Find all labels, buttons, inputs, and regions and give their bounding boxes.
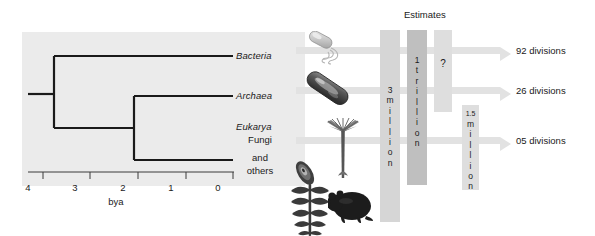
divisions-label-bacteria: 92 divisions [516, 45, 566, 56]
label-and: and [236, 152, 284, 163]
divisions-label-eukarya: 05 divisions [516, 135, 566, 146]
animal-rodent-icon [328, 186, 374, 224]
axis-tick-label-3: 3 [68, 182, 82, 193]
estimate-bar-3-million-text: 3million [380, 85, 400, 168]
estimate-bar-question[interactable]: ? [434, 30, 452, 112]
estimate-bar-3-million[interactable]: 3million [380, 30, 400, 222]
estimate-bar-1-trillion[interactable]: 1trillion [407, 30, 427, 185]
axis-title-bya: bya [96, 196, 136, 207]
axis-tick-label-4: 4 [21, 182, 35, 193]
estimate-bar-1_5-million-value: 1.5 [462, 110, 479, 117]
label-fungi: Fungi [236, 134, 284, 145]
axis-tick-label-0: 0 [211, 182, 225, 193]
estimate-bar-1_5-million[interactable]: 1.5 million [462, 105, 479, 190]
archaeon-rod-icon [305, 71, 353, 111]
fungus-mushroom-icon [325, 118, 361, 180]
arrow-head-archaea [500, 87, 511, 101]
plant-icon [288, 182, 332, 236]
divisions-label-archaea: 26 divisions [516, 85, 566, 96]
taxon-label-bacteria: Bacteria [236, 50, 272, 61]
arrow-head-bacteria [500, 47, 511, 61]
figure-canvas: Bacteria Archaea Eukarya Fungi and other… [0, 0, 595, 236]
bacterium-with-flagella-icon [306, 31, 348, 65]
estimate-bar-1_5-million-text: million [462, 119, 479, 192]
arrow-head-eukarya [500, 137, 511, 151]
taxon-label-eukarya: Eukarya [236, 121, 272, 132]
axis-tick-label-1: 1 [164, 182, 178, 193]
estimate-bar-question-text: ? [434, 58, 452, 69]
estimates-title: Estimates [404, 9, 446, 20]
taxon-label-archaea: Archaea [236, 90, 272, 101]
estimate-bar-1-trillion-text: 1trillion [407, 55, 427, 149]
label-others: others [236, 165, 284, 176]
axis-tick-label-2: 2 [116, 182, 130, 193]
